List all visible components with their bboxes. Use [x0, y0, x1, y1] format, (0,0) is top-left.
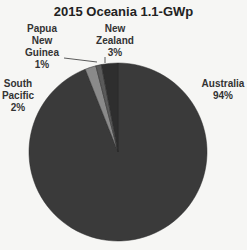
label-south-pacific: South Pacific 2% — [0, 78, 36, 114]
label-papua-new-guinea: Papua New Guinea 1% — [22, 23, 62, 71]
label-australia: Australia 94% — [200, 78, 246, 102]
label-new-zealand: New Zealand 3% — [90, 23, 140, 59]
